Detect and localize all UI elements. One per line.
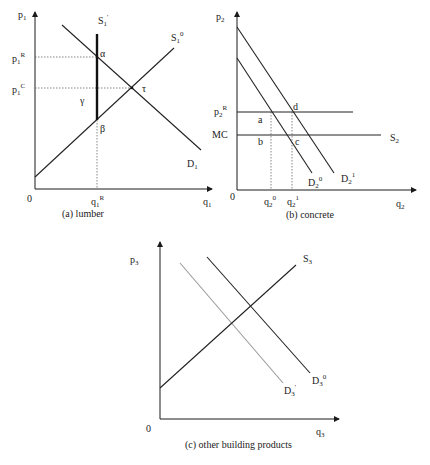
- quantity-label-q1R: q1R: [91, 194, 105, 209]
- curve-label-D1: D1: [187, 158, 198, 171]
- price-label-p1R: p1R: [12, 51, 26, 66]
- x-axis-label: q3: [316, 426, 325, 439]
- point-d: d: [293, 101, 298, 112]
- point-beta: β: [100, 123, 105, 134]
- caption-concrete: (b) concrete: [286, 209, 335, 221]
- origin-label: 0: [27, 193, 32, 204]
- demand-curve-D2-0: [237, 58, 312, 173]
- origin-label: 0: [146, 423, 151, 434]
- y-axis-label: p3: [130, 254, 139, 267]
- demand-curve-D3-0: [207, 257, 310, 373]
- curve-label-D2-1: D21: [341, 171, 356, 186]
- panel-other-building-products: p3 q3 0 S3 D30 D3' (c) other building pr…: [130, 242, 339, 451]
- caption-other-building-products: (c) other building products: [185, 439, 292, 451]
- curve-label-S1-prime: S1': [98, 13, 108, 28]
- point-tau: τ: [142, 83, 146, 94]
- curve-label-S3: S3: [303, 253, 313, 266]
- point-gamma: γ: [79, 95, 85, 106]
- curve-label-S1-0: S10: [171, 30, 184, 45]
- price-label-p1C: p1C: [12, 82, 26, 97]
- supply-curve-S3: [160, 265, 296, 388]
- curve-label-D3-0: D30: [312, 373, 327, 388]
- economics-diagram: p1 q1 0 p1R p1C q1R S1' S10 D1 α γ β τ (…: [0, 0, 430, 465]
- quantity-label-q2-0: q20: [264, 194, 277, 209]
- point-alpha: α: [100, 48, 106, 59]
- y-axis-label: p1: [18, 9, 27, 22]
- y-axis-label: p2: [216, 11, 225, 24]
- supply-curve-S1-0: [35, 48, 174, 177]
- origin-label: 0: [230, 191, 235, 202]
- price-label-MC: MC: [212, 129, 228, 140]
- curve-label-D2-0: D20: [308, 175, 323, 190]
- caption-lumber: (a) lumber: [62, 208, 105, 220]
- curve-label-S2: S2: [390, 132, 400, 145]
- panel-concrete: p2 q2 0 p2R MC q20 q21 S2 D20 D21 a b c …: [212, 11, 416, 221]
- point-c: c: [295, 136, 300, 147]
- curve-label-D3-prime: D3': [284, 383, 296, 398]
- x-axis-label: q2: [396, 198, 405, 211]
- demand-curve-D2-1: [237, 27, 334, 173]
- point-b: b: [258, 136, 263, 147]
- x-axis-label: q1: [203, 196, 212, 209]
- point-a: a: [258, 114, 263, 125]
- equilibrium-dot: [131, 87, 134, 90]
- panel-lumber: p1 q1 0 p1R p1C q1R S1' S10 D1 α γ β τ (…: [12, 9, 212, 220]
- quantity-label-q2-1: q21: [287, 194, 300, 209]
- price-label-p2R: p2R: [214, 104, 228, 119]
